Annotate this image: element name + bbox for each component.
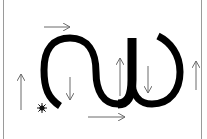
diagram-svg xyxy=(0,0,207,139)
diagram-canvas xyxy=(0,0,207,139)
star-burst-icon xyxy=(37,103,47,113)
omega-right-curve xyxy=(132,36,180,104)
arch-curve xyxy=(44,38,118,106)
